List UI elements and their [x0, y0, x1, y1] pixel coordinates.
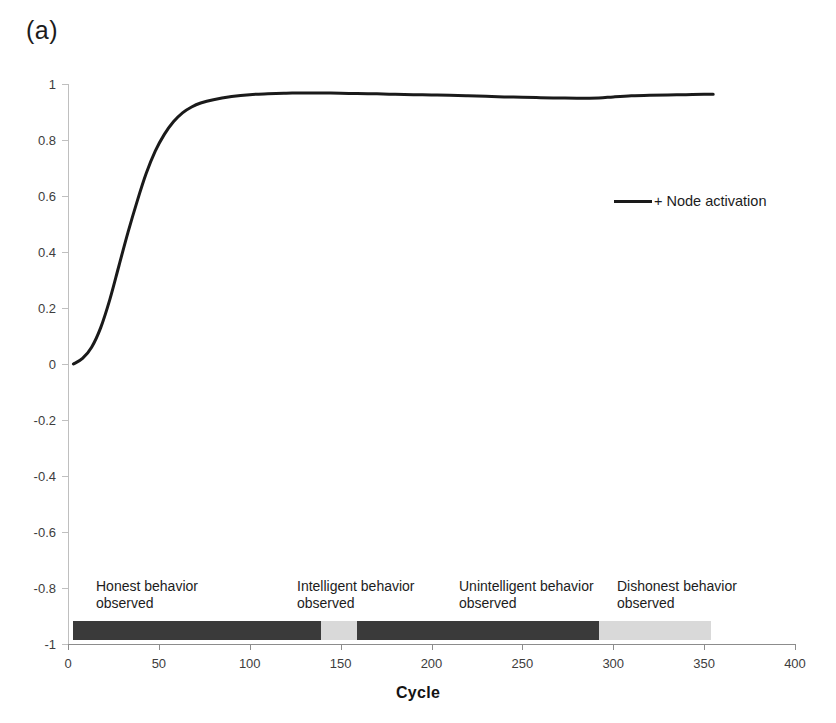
- phase-caption: Intelligent behaviorobserved: [297, 578, 415, 612]
- phase-bar: [599, 621, 712, 640]
- x-axis-tick: [68, 644, 69, 650]
- y-axis-tick-label: 0.6: [12, 189, 56, 204]
- x-axis-tick: [159, 644, 160, 650]
- x-axis-tick: [704, 644, 705, 650]
- phase-caption: Dishonest behaviorobserved: [617, 578, 737, 612]
- phase-bar: [73, 621, 320, 640]
- x-axis-tick-label: 300: [583, 656, 643, 671]
- phase-caption-line-2: observed: [297, 595, 415, 612]
- legend-line-swatch: [614, 200, 652, 203]
- y-axis-tick-label: 1: [12, 77, 56, 92]
- phase-caption-line-1: Dishonest behavior: [617, 578, 737, 595]
- x-axis-tick: [341, 644, 342, 650]
- x-axis-title: Cycle: [0, 684, 836, 702]
- phase-bar: [357, 621, 599, 640]
- x-axis-tick-label: 150: [311, 656, 371, 671]
- x-axis-tick: [613, 644, 614, 650]
- phase-caption-line-1: Honest behavior: [96, 578, 198, 595]
- panel-label: (a): [26, 16, 58, 45]
- y-axis-tick-label: 0.4: [12, 245, 56, 260]
- x-axis-tick: [250, 644, 251, 650]
- y-axis-tick-label: -0.2: [12, 413, 56, 428]
- figure-panel-a: (a) 10.80.60.40.20-0.2-0.4-0.6-0.8-1 050…: [0, 0, 836, 723]
- y-axis-tick-label: -0.4: [12, 469, 56, 484]
- x-axis-tick-label: 200: [402, 656, 462, 671]
- phase-caption-line-1: Unintelligent behavior: [459, 578, 594, 595]
- legend-label-node-activation: + Node activation: [654, 193, 766, 209]
- x-axis-tick: [522, 644, 523, 650]
- x-axis-tick-label: 0: [38, 656, 98, 671]
- y-axis-tick-label: -1: [12, 637, 56, 652]
- phase-caption: Unintelligent behaviorobserved: [459, 578, 594, 612]
- phase-caption-line-2: observed: [617, 595, 737, 612]
- x-axis-tick-label: 50: [129, 656, 189, 671]
- legend: + Node activation: [614, 193, 766, 209]
- phase-caption-line-1: Intelligent behavior: [297, 578, 415, 595]
- x-axis-tick-label: 350: [674, 656, 734, 671]
- y-axis-tick-label: 0: [12, 357, 56, 372]
- x-axis-tick-label: 250: [492, 656, 552, 671]
- phase-bar: [321, 621, 357, 640]
- y-axis-tick-label: 0.2: [12, 301, 56, 316]
- y-axis-tick-label: -0.8: [12, 581, 56, 596]
- x-axis-tick-label: 400: [765, 656, 825, 671]
- phase-caption-line-2: observed: [459, 595, 594, 612]
- phase-caption: Honest behaviorobserved: [96, 578, 198, 612]
- plot-area: [68, 84, 795, 644]
- x-axis-tick: [432, 644, 433, 650]
- x-axis-tick: [795, 644, 796, 650]
- y-axis-tick-label: 0.8: [12, 133, 56, 148]
- x-axis-tick-label: 100: [220, 656, 280, 671]
- phase-caption-line-2: observed: [96, 595, 198, 612]
- y-axis-tick-label: -0.6: [12, 525, 56, 540]
